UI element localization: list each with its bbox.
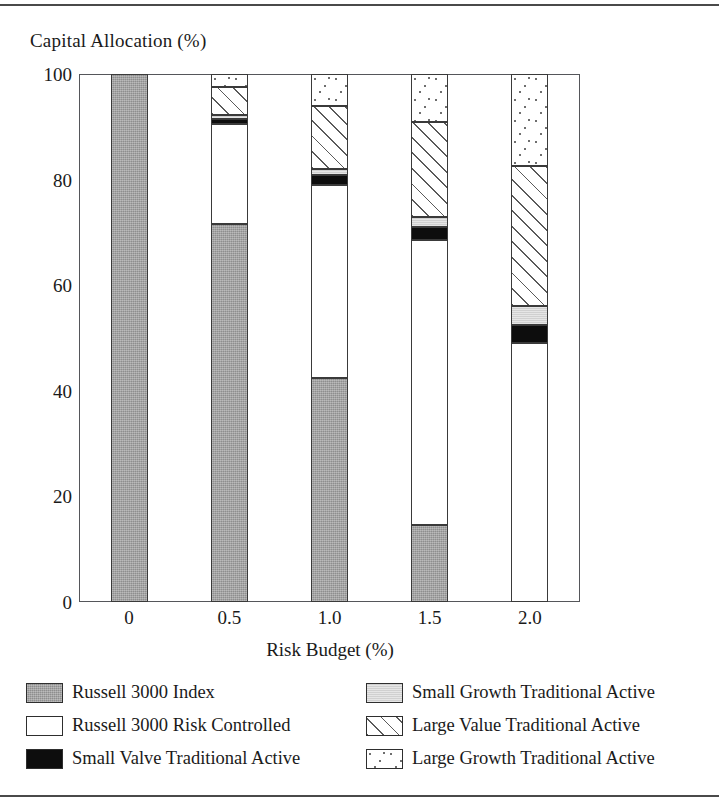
x-tick-label: 0 xyxy=(94,608,164,627)
bar-segment xyxy=(211,119,248,124)
bar-segment xyxy=(211,124,248,224)
bar-segment xyxy=(411,74,448,122)
legend-item[interactable]: Russell 3000 Index xyxy=(26,676,366,709)
bar-segment xyxy=(411,240,448,525)
bar-segment xyxy=(411,122,448,217)
bar-segment xyxy=(411,525,448,602)
bar-segment xyxy=(511,166,548,306)
chart-legend: Russell 3000 IndexSmall Growth Tradition… xyxy=(26,676,694,775)
top-divider-rule xyxy=(0,4,719,6)
legend-item-label: Small Growth Traditional Active xyxy=(412,683,655,702)
x-axis-title: Risk Budget (%) xyxy=(0,639,660,661)
legend-item[interactable]: Large Growth Traditional Active xyxy=(366,742,694,775)
y-tick-label: 20 xyxy=(26,487,72,506)
bar-column xyxy=(111,74,148,602)
bar-segment xyxy=(311,74,348,106)
legend-item[interactable]: Small Valve Traditional Active xyxy=(26,742,366,775)
legend-swatch-icon xyxy=(366,683,403,703)
y-tick-label: 60 xyxy=(26,276,72,295)
bottom-divider-rule xyxy=(0,795,719,797)
bar-segment xyxy=(511,306,548,324)
legend-item[interactable]: Small Growth Traditional Active xyxy=(366,676,694,709)
x-tick-label: 2.0 xyxy=(495,608,565,627)
legend-item-label: Small Valve Traditional Active xyxy=(72,749,300,768)
legend-swatch-icon xyxy=(366,749,403,769)
legend-item-label: Large Growth Traditional Active xyxy=(412,749,655,768)
bar-segment xyxy=(311,185,348,378)
legend-swatch-icon xyxy=(366,716,403,736)
bar-segment xyxy=(311,106,348,169)
legend-swatch-icon xyxy=(26,716,63,736)
y-tick-label: 100 xyxy=(26,65,72,84)
legend-item-label: Large Value Traditional Active xyxy=(412,716,640,735)
bar-segment xyxy=(311,378,348,602)
bar-segment xyxy=(211,224,248,602)
legend-item-label: Russell 3000 Risk Controlled xyxy=(72,716,290,735)
bar-segment xyxy=(211,87,248,114)
x-tick-label: 0.5 xyxy=(194,608,264,627)
bar-segment xyxy=(511,325,548,343)
y-axis-tick-labels: 100806040200 xyxy=(0,74,72,602)
bar-segment xyxy=(211,115,248,119)
bar-segment xyxy=(311,175,348,185)
legend-swatch-icon xyxy=(26,749,63,769)
bar-segment xyxy=(411,227,448,240)
bar-segment xyxy=(111,74,148,602)
bar-column xyxy=(511,74,548,602)
bar-column xyxy=(311,74,348,602)
bar-segment xyxy=(311,169,348,175)
y-tick-label: 80 xyxy=(26,170,72,189)
x-tick-label: 1.0 xyxy=(295,608,365,627)
legend-item-label: Russell 3000 Index xyxy=(72,683,215,702)
legend-item[interactable]: Large Value Traditional Active xyxy=(366,709,694,742)
y-tick-label: 0 xyxy=(26,593,72,612)
bar-column xyxy=(411,74,448,602)
bar-segment xyxy=(511,343,548,602)
x-tick-label: 1.5 xyxy=(395,608,465,627)
bar-segment xyxy=(411,217,448,228)
legend-item[interactable]: Russell 3000 Risk Controlled xyxy=(26,709,366,742)
bar-column xyxy=(211,74,248,602)
bar-segment xyxy=(211,74,248,87)
y-axis-title: Capital Allocation (%) xyxy=(30,30,206,52)
bar-segment xyxy=(511,74,548,166)
stacked-bars-layer xyxy=(79,74,580,602)
y-tick-label: 40 xyxy=(26,381,72,400)
legend-swatch-icon xyxy=(26,683,63,703)
x-axis-tick-labels: 00.51.01.52.0 xyxy=(79,608,580,638)
